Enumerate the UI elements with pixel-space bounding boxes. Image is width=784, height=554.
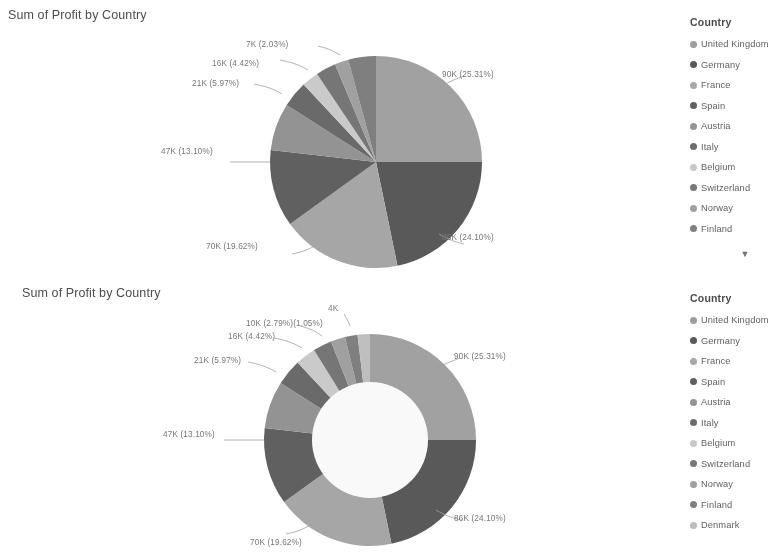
donut-chart-panel[interactable]: Sum of Profit by Country — [6, 284, 678, 554]
legend-item-label: Spain — [701, 377, 725, 387]
leader-line-16k — [280, 60, 308, 70]
donut-label-4k: 4K — [328, 304, 338, 313]
legend-item-switzerland[interactable]: Switzerland — [690, 454, 784, 475]
legend-item-germany[interactable]: Germany — [690, 331, 784, 352]
legend-item-france[interactable]: France — [690, 351, 784, 372]
pie-label-16k: 16K (4.42%) — [212, 59, 259, 68]
legend-title: Country — [690, 292, 784, 304]
legend-item-label: Germany — [701, 60, 740, 70]
donut-leader-line-16k — [274, 338, 302, 348]
page-title: Sum of Profit by Country — [8, 8, 147, 22]
legend-swatch-icon — [690, 41, 697, 48]
legend-swatch-icon — [690, 481, 697, 488]
legend-item-belgium[interactable]: Belgium — [690, 433, 784, 454]
legend-swatch-icon — [690, 378, 697, 385]
legend-scroll-down-icon[interactable]: ▼ — [690, 249, 784, 259]
legend-item-label: United Kingdom — [701, 39, 769, 49]
legend-item-belgium[interactable]: Belgium — [690, 157, 784, 178]
leader-line-7k — [318, 46, 340, 55]
legend-item-label: Switzerland — [701, 459, 750, 469]
legend-item-germany[interactable]: Germany — [690, 55, 784, 76]
legend-swatch-icon — [690, 61, 697, 68]
legend-item-label: Austria — [701, 121, 731, 131]
legend-swatch-icon — [690, 225, 697, 232]
legend-item-label: Norway — [701, 203, 733, 213]
legend-item-finland[interactable]: Finland — [690, 219, 784, 240]
legend-item-label: Belgium — [701, 162, 735, 172]
donut-chart-legend[interactable]: Country United Kingdom Germany France Sp… — [690, 292, 784, 536]
legend-item-austria[interactable]: Austria — [690, 392, 784, 413]
donut-label-16k: 16K (4.42%) — [228, 332, 275, 341]
legend-swatch-icon — [690, 143, 697, 150]
legend-item-united-kingdom[interactable]: United Kingdom — [690, 310, 784, 331]
legend-item-italy[interactable]: Italy — [690, 137, 784, 158]
legend-item-label: Italy — [701, 142, 719, 152]
pie-label-86k: 86K (24.10%) — [442, 233, 494, 242]
legend-item-denmark[interactable]: Denmark — [690, 515, 784, 536]
legend-item-france[interactable]: France — [690, 75, 784, 96]
legend-item-norway[interactable]: Norway — [690, 474, 784, 495]
legend-item-spain[interactable]: Spain — [690, 372, 784, 393]
donut-leader-line-21k — [248, 362, 276, 372]
legend-title: Country — [690, 16, 784, 28]
legend-item-label: Spain — [701, 101, 725, 111]
legend-swatch-icon — [690, 419, 697, 426]
leader-line-21k — [254, 84, 282, 94]
legend-item-label: Austria — [701, 397, 731, 407]
legend-swatch-icon — [690, 337, 697, 344]
legend-item-spain[interactable]: Spain — [690, 96, 784, 117]
legend-swatch-icon — [690, 184, 697, 191]
pie-chart-legend[interactable]: Country United Kingdom Germany France Sp… — [690, 16, 784, 259]
legend-item-label: Norway — [701, 479, 733, 489]
pie-label-70k: 70K (19.62%) — [206, 242, 258, 251]
pie-label-90k: 90K (25.31%) — [442, 70, 494, 79]
legend-swatch-icon — [690, 102, 697, 109]
legend-item-label: Italy — [701, 418, 719, 428]
report-canvas: Sum of Profit by Country — [0, 0, 784, 554]
legend-item-label: Finland — [701, 224, 732, 234]
legend-item-label: Germany — [701, 336, 740, 346]
donut-label-21k: 21K (5.97%) — [194, 356, 241, 365]
legend-item-switzerland[interactable]: Switzerland — [690, 178, 784, 199]
legend-swatch-icon — [690, 440, 697, 447]
legend-item-italy[interactable]: Italy — [690, 413, 784, 434]
legend-item-label: Belgium — [701, 438, 735, 448]
legend-swatch-icon — [690, 205, 697, 212]
donut-label-47k: 47K (13.10%) — [163, 430, 215, 439]
legend-swatch-icon — [690, 522, 697, 529]
legend-item-label: United Kingdom — [701, 315, 769, 325]
pie-label-47k: 47K (13.10%) — [161, 147, 213, 156]
legend-item-label: France — [701, 80, 731, 90]
legend-swatch-icon — [690, 399, 697, 406]
donut-label-10k: 10K (2.79%)(1.05%) — [246, 319, 323, 328]
legend-item-label: Switzerland — [701, 183, 750, 193]
donut-hole — [312, 382, 428, 498]
legend-item-label: Finland — [701, 500, 732, 510]
legend-swatch-icon — [690, 164, 697, 171]
legend-swatch-icon — [690, 358, 697, 365]
legend-item-austria[interactable]: Austria — [690, 116, 784, 137]
pie-label-21k: 21K (5.97%) — [192, 79, 239, 88]
legend-swatch-icon — [690, 501, 697, 508]
legend-swatch-icon — [690, 123, 697, 130]
legend-swatch-icon — [690, 460, 697, 467]
donut-chart-title: Sum of Profit by Country — [22, 286, 161, 300]
legend-item-label: France — [701, 356, 731, 366]
donut-label-86k: 86K (24.10%) — [454, 514, 506, 523]
donut-label-90k: 90K (25.31%) — [454, 352, 506, 361]
legend-item-united-kingdom[interactable]: United Kingdom — [690, 34, 784, 55]
pie-label-7k: 7K (2.03%) — [246, 40, 288, 49]
donut-leader-line-4k — [344, 314, 350, 326]
pie-chart-panel[interactable]: Sum of Profit by Country — [6, 6, 678, 278]
donut-label-70k: 70K (19.62%) — [250, 538, 302, 547]
legend-item-norway[interactable]: Norway — [690, 198, 784, 219]
legend-swatch-icon — [690, 317, 697, 324]
legend-swatch-icon — [690, 82, 697, 89]
legend-item-label: Denmark — [701, 520, 739, 530]
legend-item-finland[interactable]: Finland — [690, 495, 784, 516]
